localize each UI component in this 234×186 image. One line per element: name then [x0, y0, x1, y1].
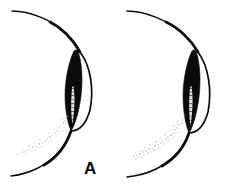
- globe-outline-upper-thick: [50, 22, 80, 52]
- panel-label-a: A: [84, 160, 96, 177]
- panel-a-drawing: [0, 0, 117, 186]
- globe-outline-lower-thick: [44, 131, 71, 165]
- globe-outline-upper-thick: [166, 22, 198, 52]
- figure-root: A: [0, 0, 234, 186]
- globe-outline-upper: [12, 11, 80, 52]
- globe-outline-upper: [127, 11, 198, 52]
- globe-outline-lower-thick: [162, 133, 189, 166]
- panel-b: B: [117, 0, 234, 186]
- panel-a: A: [0, 0, 117, 186]
- globe-outline-lower: [11, 131, 71, 176]
- panel-b-drawing: [117, 0, 234, 186]
